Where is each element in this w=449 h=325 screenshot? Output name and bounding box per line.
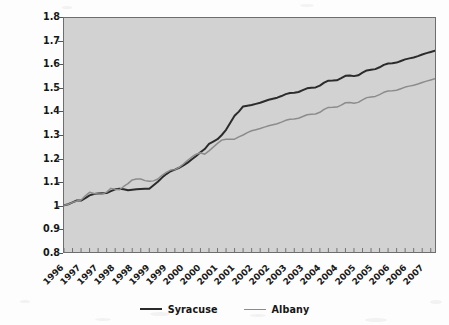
scan-artifact [300,4,314,7]
chart-legend: SyracuseAlbany [0,300,449,318]
legend-label: Albany [272,304,310,315]
y-tick-label: 1 [24,201,60,211]
scan-artifact [365,318,387,322]
y-tick-label: 0.8 [24,248,60,258]
y-tick-label: 1.8 [24,12,60,22]
y-tick-label: 0.9 [24,224,60,234]
legend-item-syracuse: Syracuse [140,304,218,315]
y-tick-label: 1.7 [24,36,60,46]
y-tick-label: 1.1 [24,177,60,187]
x-axis-ticks: 1996199719971998199819991999200020002001… [63,255,437,301]
plot-area [63,17,436,253]
y-tick-label: 1.6 [24,59,60,69]
series-line-syracuse [64,51,435,205]
legend-swatch-albany-icon [244,309,266,310]
y-tick-label: 1.2 [24,154,60,164]
y-tick-label: 1.4 [24,106,60,116]
chart-lines [64,18,435,252]
chart-figure: Index value of cumulative capital apprec… [0,0,449,325]
y-tick-label: 1.3 [24,130,60,140]
legend-item-albany: Albany [244,304,310,315]
scan-artifact [95,318,111,321]
series-line-albany [64,79,435,205]
y-tick-mark [58,253,63,254]
y-tick-label: 1.5 [24,83,60,93]
legend-label: Syracuse [168,304,218,315]
scan-artifact [62,6,72,9]
legend-swatch-syracuse-icon [140,308,162,310]
